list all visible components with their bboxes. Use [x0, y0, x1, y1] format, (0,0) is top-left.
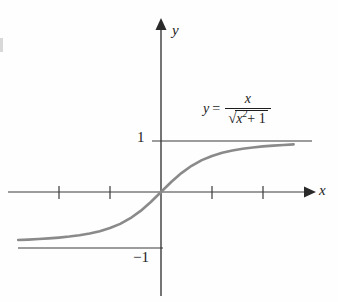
fraction-denominator: √x2+ 1: [225, 109, 271, 127]
y-axis-label: y: [172, 22, 179, 39]
radicand: x2+ 1: [235, 110, 267, 126]
x-axis-label: x: [319, 182, 326, 199]
equation-equals-sign: =: [212, 101, 220, 117]
y-tick-label-negative-1: −1: [133, 249, 149, 266]
y-tick-label-1: 1: [137, 129, 145, 146]
function-graph-figure: y x 1 −1 y = x √x2+ 1: [0, 0, 338, 302]
equation-annotation: y = x √x2+ 1: [203, 91, 271, 126]
fraction-numerator: x: [238, 91, 258, 108]
plot-canvas: [0, 0, 338, 302]
radicand-tail: + 1: [247, 111, 265, 126]
x-axis-arrowhead: [304, 187, 316, 198]
equation-fraction: x √x2+ 1: [225, 91, 271, 126]
equation-lhs: y: [203, 101, 209, 117]
y-axis-arrowhead: [156, 18, 167, 30]
